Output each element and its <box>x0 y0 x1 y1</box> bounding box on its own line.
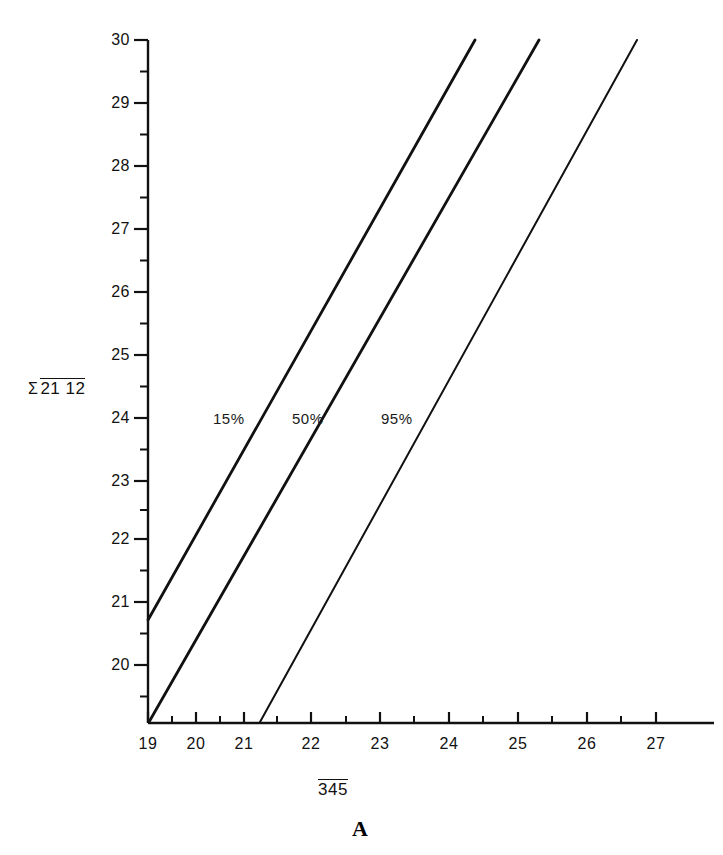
y-tick-label: 21 <box>92 594 130 610</box>
x-axis-title-indices: 345 <box>318 779 348 798</box>
x-axis-major-ticks <box>148 712 656 723</box>
x-tick-label: 24 <box>429 736 469 752</box>
y-tick-label: 25 <box>92 347 130 363</box>
y-tick-label: 30 <box>92 32 130 48</box>
figure-root: 30 29 28 27 26 25 24 23 22 21 20 19 20 2… <box>0 0 723 855</box>
axis-lines <box>148 40 714 723</box>
x-tick-label: 20 <box>176 736 216 752</box>
x-tick-label: 19 <box>128 736 168 752</box>
y-tick-label: 20 <box>92 657 130 673</box>
y-tick-label: 24 <box>92 410 130 426</box>
y-tick-label: 27 <box>92 221 130 237</box>
series-label-50pct: 50% <box>292 411 324 426</box>
series-line-15pct <box>148 40 475 620</box>
x-tick-label: 25 <box>498 736 538 752</box>
x-tick-label: 27 <box>636 736 676 752</box>
series-label-95pct: 95% <box>381 411 413 426</box>
series-line-50pct <box>149 40 539 722</box>
x-tick-label: 22 <box>291 736 331 752</box>
x-tick-label: 26 <box>567 736 607 752</box>
series-label-15pct: 15% <box>213 411 245 426</box>
figure-caption: A <box>352 816 368 842</box>
y-axis-title: Σ21 12 <box>28 378 85 397</box>
y-tick-label: 23 <box>92 473 130 489</box>
y-tick-label: 28 <box>92 158 130 174</box>
x-tick-label: 21 <box>224 736 264 752</box>
x-axis-title: 345 <box>318 779 348 798</box>
y-tick-label: 29 <box>92 95 130 111</box>
y-tick-label: 22 <box>92 531 130 547</box>
y-tick-label: 26 <box>92 284 130 300</box>
series-line-95pct <box>260 40 637 722</box>
data-series <box>148 40 637 722</box>
sigma-symbol: Σ <box>28 381 38 397</box>
plot-canvas <box>0 0 723 855</box>
x-tick-label: 23 <box>360 736 400 752</box>
y-axis-title-indices: 21 12 <box>40 378 85 397</box>
